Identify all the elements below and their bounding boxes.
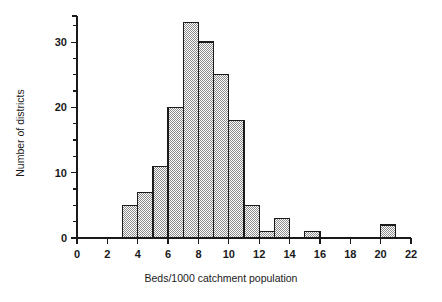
x-tick-label: 18 bbox=[344, 248, 356, 260]
histogram-bar bbox=[198, 42, 213, 238]
y-tick-label: 30 bbox=[55, 36, 67, 48]
histogram-bar bbox=[123, 205, 138, 238]
histogram-chart: 0102030 0246810121416182022 Beds/1000 ca… bbox=[0, 0, 442, 302]
x-tick-label: 10 bbox=[223, 248, 235, 260]
histogram-bar bbox=[168, 107, 183, 238]
histogram-bar bbox=[214, 75, 229, 238]
histogram-bar bbox=[183, 23, 198, 238]
x-tick-label: 22 bbox=[405, 248, 417, 260]
chart-canvas: 0102030 0246810121416182022 Beds/1000 ca… bbox=[0, 0, 442, 302]
histogram-bar bbox=[381, 225, 396, 238]
x-tick-label: 8 bbox=[195, 248, 201, 260]
histogram-bar bbox=[274, 218, 289, 238]
x-tick-label: 20 bbox=[375, 248, 387, 260]
histogram-bar bbox=[305, 231, 320, 238]
y-tick-label: 0 bbox=[61, 232, 67, 244]
x-axis-title: Beds/1000 catchment population bbox=[145, 272, 298, 284]
histogram-bar bbox=[259, 231, 274, 238]
x-tick-label: 12 bbox=[253, 248, 265, 260]
histogram-bar bbox=[153, 166, 168, 238]
x-tick-label: 4 bbox=[135, 248, 142, 260]
x-tick-label: 2 bbox=[104, 248, 110, 260]
x-tick-label: 16 bbox=[314, 248, 326, 260]
y-tick-label: 20 bbox=[55, 101, 67, 113]
x-tick-label: 6 bbox=[165, 248, 171, 260]
histogram-bar bbox=[244, 205, 259, 238]
histogram-bar bbox=[138, 192, 153, 238]
y-axis-title: Number of districts bbox=[14, 89, 26, 177]
y-tick-label: 10 bbox=[55, 167, 67, 179]
x-tick-label: 0 bbox=[74, 248, 80, 260]
histogram-bar bbox=[229, 120, 244, 238]
x-tick-label: 14 bbox=[283, 248, 296, 260]
